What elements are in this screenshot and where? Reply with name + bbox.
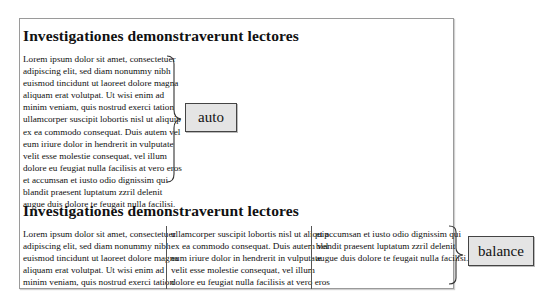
balanced-column-1: Lorem ipsum dolor sit amet, consectetuer… bbox=[23, 228, 178, 288]
text-line: adipiscing elit, sed diam nonummy nibh bbox=[23, 240, 178, 252]
curly-brace-icon bbox=[166, 54, 184, 184]
label-text: auto bbox=[198, 109, 224, 126]
section-heading-balance: Investigationes demonstraverunt lectores bbox=[23, 202, 299, 220]
column-rule bbox=[311, 226, 312, 289]
text-line: blandit praesent luptatum zzril delenit bbox=[23, 186, 182, 198]
text-line: adipiscing elit, sed diam nonummy nibh bbox=[23, 65, 182, 77]
balanced-column-2: ullamcorper suscipit lobortis nisl ut al… bbox=[171, 228, 330, 288]
balanced-column-3: et accumsan et iusto odio dignissim qui … bbox=[316, 228, 468, 264]
text-line: aliquam erat volutpat. Ut wisi enim ad bbox=[23, 89, 182, 101]
text-line: velit esse molestie consequat, vel illum bbox=[23, 150, 182, 162]
column-fill-label-auto: auto bbox=[185, 103, 237, 132]
text-line: euismod tincidunt ut laoreet dolore magn… bbox=[23, 77, 182, 89]
section-heading-auto: Investigationes demonstraverunt lectores bbox=[23, 27, 299, 45]
text-line: ex ea commodo consequat. Duis autem vel bbox=[23, 126, 182, 138]
column-fill-label-balance: balance bbox=[468, 236, 534, 266]
text-line: minim veniam, quis nostrud exerci tation bbox=[23, 101, 182, 113]
text-line: eum iriure dolor in hendrerit in vulputa… bbox=[23, 138, 182, 150]
text-line: et accumsan et iusto odio dignissim qui bbox=[316, 228, 468, 240]
text-line: dolore eu feugiat nulla facilisis at ver… bbox=[23, 162, 182, 174]
column-rule bbox=[166, 226, 167, 289]
label-text: balance bbox=[478, 243, 524, 260]
text-line: minim veniam, quis nostrud exerci tation bbox=[23, 276, 178, 288]
text-line: Lorem ipsum dolor sit amet, consectetuer bbox=[23, 228, 178, 240]
text-line: Lorem ipsum dolor sit amet, consectetuer bbox=[23, 53, 182, 65]
text-line: ullamcorper suscipit lobortis nisl ut al… bbox=[171, 228, 330, 240]
text-line: velit esse molestie consequat, vel illum bbox=[171, 264, 330, 276]
auto-fill-paragraph: Lorem ipsum dolor sit amet, consectetuer… bbox=[23, 53, 182, 210]
text-line: eum iriure dolor in hendrerit in vulputa… bbox=[171, 252, 330, 264]
text-line: blandit praesent luptatum zzril delenit bbox=[316, 240, 468, 252]
text-line: ullamcorper suscipit lobortis nisl ut al… bbox=[23, 113, 182, 125]
curly-brace-icon bbox=[448, 224, 466, 286]
text-line: ex ea commodo consequat. Duis autem vel bbox=[171, 240, 330, 252]
text-line: augue duis dolore te feugait nulla facil… bbox=[316, 252, 468, 264]
text-line: dolore eu feugiat nulla facilisis at ver… bbox=[171, 276, 330, 288]
text-line: euismod tincidunt ut laoreet dolore magn… bbox=[23, 252, 178, 264]
text-line: et accumsan et iusto odio dignissim qui bbox=[23, 174, 182, 186]
text-line: aliquam erat volutpat. Ut wisi enim ad bbox=[23, 264, 178, 276]
